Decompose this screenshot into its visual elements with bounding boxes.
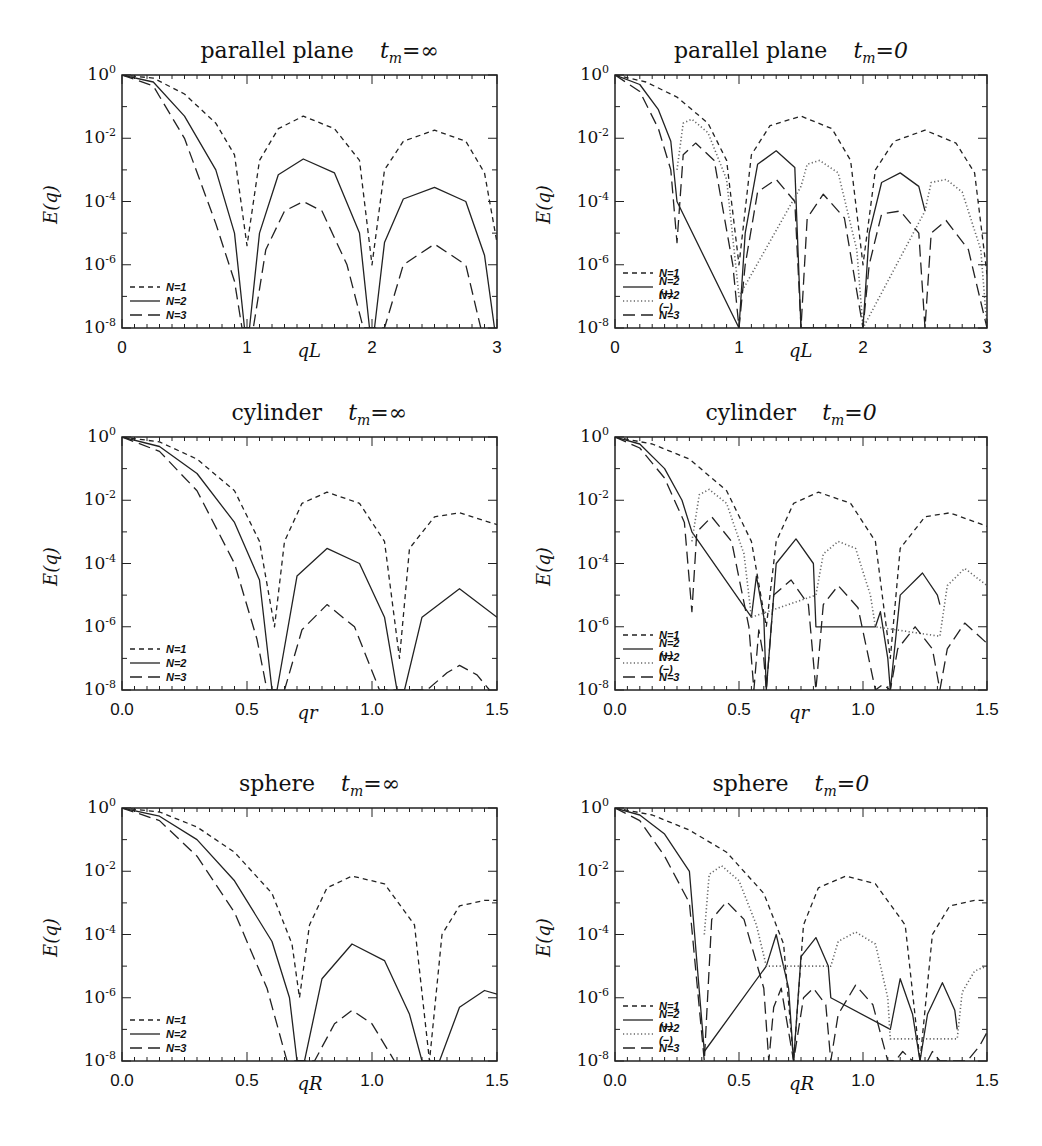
x-axis-label: qr: [298, 702, 318, 723]
legend-swatch: [130, 672, 160, 682]
panel-title: parallel planetm=0: [674, 38, 908, 66]
x-tick-label: 1.0: [851, 700, 875, 720]
y-tick-label: 100: [549, 63, 609, 84]
legend-label: N=2: [166, 295, 187, 307]
legend-label: N=3: [659, 671, 680, 683]
y-tick-label: 10-4: [56, 190, 116, 211]
y-tick-label: 10-6: [549, 253, 609, 274]
x-tick-label: 0.0: [603, 1071, 627, 1091]
x-tick-label: 1.0: [360, 700, 384, 720]
legend-label: N=3: [166, 1042, 187, 1054]
legend-item: N=1: [130, 280, 187, 294]
legend-item: N=2: [130, 294, 187, 308]
legend-swatch: [623, 310, 653, 320]
y-tick-label: 10-4: [56, 923, 116, 944]
x-tick-label: 1.0: [360, 1071, 384, 1091]
plot-area: [0, 0, 1042, 1146]
x-tick-label: 1.5: [485, 700, 509, 720]
x-tick-label: 1.5: [485, 1071, 509, 1091]
legend-swatch: [623, 672, 653, 682]
legend-swatch: [623, 268, 653, 278]
tm-symbol: t: [380, 38, 389, 63]
series-line: [704, 866, 987, 1039]
series-line: [615, 75, 987, 274]
legend-swatch: [623, 644, 653, 654]
x-tick-label: 1: [734, 338, 743, 358]
panel-title-tm: tm=0: [853, 38, 908, 63]
y-tick-label: 10-2: [56, 488, 116, 509]
y-tick-label: 10-6: [56, 615, 116, 636]
panel-title: spheretm=∞: [239, 771, 400, 799]
series-line: [615, 437, 987, 658]
y-tick-label: 100: [549, 425, 609, 446]
tm-subscript: m: [389, 50, 402, 66]
legend-item: N=2 (−): [623, 294, 680, 308]
legend-swatch: [130, 310, 160, 320]
legend-item: N=2 (−): [623, 656, 680, 670]
x-tick-label: 0: [610, 338, 619, 358]
y-tick-label: 10-6: [549, 615, 609, 636]
legend-item: N=3: [130, 1041, 187, 1055]
legend-swatch: [623, 658, 653, 668]
panel-title-tm: tm=∞: [380, 38, 439, 63]
tm-value: =∞: [363, 771, 400, 796]
tm-value: =∞: [402, 38, 439, 63]
panel-title-tm: tm=0: [815, 771, 870, 796]
y-tick-label: 10-6: [56, 986, 116, 1007]
panel-title-shape: parallel plane: [674, 38, 827, 63]
panel-title: spheretm=0: [713, 771, 870, 799]
panel-title-shape: cylinder: [232, 400, 323, 425]
legend-item: N=1: [130, 1013, 187, 1027]
y-axis-label: E(q): [533, 185, 554, 224]
tm-symbol: t: [822, 400, 831, 425]
x-tick-label: 0.0: [110, 1071, 134, 1091]
panel-title: cylindertm=∞: [232, 400, 408, 428]
plot-area: [0, 0, 1042, 1146]
tm-symbol: t: [341, 771, 350, 796]
x-tick-label: 1: [242, 338, 251, 358]
legend-swatch: [623, 1043, 653, 1053]
x-tick-label: 3: [982, 338, 991, 358]
x-tick-label: 0.5: [727, 700, 751, 720]
x-tick-label: 0: [117, 338, 126, 358]
y-tick-label: 10-2: [56, 859, 116, 880]
series-line: [692, 489, 987, 636]
y-tick-label: 10-8: [549, 678, 609, 699]
y-tick-label: 10-4: [549, 923, 609, 944]
panel-title: parallel planetm=∞: [201, 38, 439, 66]
y-tick-label: 10-6: [56, 253, 116, 274]
legend: N=1N=2N=3: [130, 1013, 187, 1055]
y-axis-label: E(q): [40, 918, 61, 957]
legend-swatch: [130, 296, 160, 306]
x-tick-label: 2: [367, 338, 376, 358]
y-axis-label: E(q): [40, 185, 61, 224]
tm-subscript: m: [831, 412, 844, 428]
legend-item: N=2 (−): [623, 1027, 680, 1041]
legend-swatch: [623, 630, 653, 640]
y-axis-label: E(q): [40, 547, 61, 586]
x-tick-label: 3: [492, 338, 501, 358]
y-tick-label: 10-2: [549, 488, 609, 509]
tm-subscript: m: [350, 783, 363, 799]
y-axis-label: E(q): [533, 547, 554, 586]
series-line: [677, 119, 987, 328]
tm-symbol: t: [853, 38, 862, 63]
panel-title-shape: sphere: [713, 771, 789, 796]
x-tick-label: 1.5: [975, 700, 999, 720]
legend-swatch: [623, 1015, 653, 1025]
y-tick-label: 10-4: [56, 552, 116, 573]
legend-swatch: [130, 282, 160, 292]
x-axis-label: qR: [789, 1073, 814, 1094]
legend-item: N=1: [130, 642, 187, 656]
y-tick-label: 100: [56, 63, 116, 84]
x-axis-label: qR: [298, 1073, 323, 1094]
legend-label: N=1: [166, 643, 187, 655]
tm-symbol: t: [348, 400, 357, 425]
plot-area: [0, 0, 1042, 1146]
series-line: [122, 75, 497, 265]
x-tick-label: 0.0: [603, 700, 627, 720]
legend-label: N=1: [166, 1014, 187, 1026]
legend-swatch: [130, 1043, 160, 1053]
legend: N=1N=2 (+)N=2 (−)N=3: [623, 266, 680, 322]
y-tick-label: 10-2: [56, 126, 116, 147]
